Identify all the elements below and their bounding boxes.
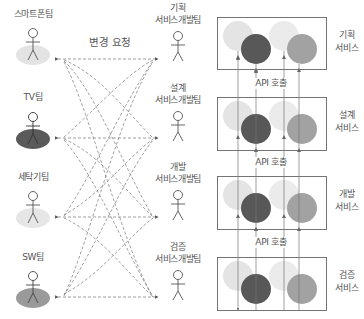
api-call-label-1: API 호출: [244, 78, 298, 89]
dev-team-label-develop-line2: 서비스개발팀: [148, 174, 208, 185]
api-call-label-3: API 호출: [244, 237, 298, 248]
service-box-develop: [218, 177, 327, 230]
service-box-planning: [218, 18, 327, 70]
service-label-develop-line1: 개발: [330, 189, 364, 200]
team-label-tv: TV팀: [8, 92, 58, 103]
service-label-develop-line2: 서비스: [330, 202, 364, 213]
team-label-sw: SW팀: [8, 252, 58, 263]
dev-team-label-verify-line2: 서비스개발팀: [148, 254, 208, 265]
service-label-design-line2: 서비스: [330, 123, 364, 134]
dev-team-label-design-line2: 서비스개발팀: [148, 95, 208, 106]
service-label-design-line1: 설계: [330, 110, 364, 121]
dev-team-label-planning-line2: 서비스개발팀: [148, 15, 208, 26]
actor-icon-develop-dev: [171, 191, 185, 221]
dev-team-label-design-line1: 설계: [148, 83, 208, 94]
api-call-label-2: API 호출: [244, 157, 298, 168]
diagram-canvas: [0, 0, 364, 319]
team-label-smartphone: 스마트폰팀: [8, 9, 58, 20]
change-request-label: 변경 요청: [80, 37, 140, 48]
dev-team-label-verify-line1: 검증: [148, 242, 208, 253]
service-box-verify: [218, 258, 327, 311]
dev-team-label-develop-line1: 개발: [148, 162, 208, 173]
service-label-verify-line1: 검증: [330, 270, 364, 281]
dev-team-label-planning-line1: 기획: [148, 3, 208, 14]
change-request-arrows: [58, 59, 158, 297]
service-label-planning-line1: 기획: [330, 30, 364, 41]
actor-icon-design-dev: [171, 112, 185, 142]
service-label-verify-line2: 서비스: [330, 283, 364, 294]
team-label-washer: 세탁기팀: [8, 172, 58, 183]
service-label-planning-line2: 서비스: [330, 43, 364, 54]
actor-icon-planning-dev: [171, 32, 185, 62]
service-box-design: [218, 98, 327, 151]
actor-icon-verify-dev: [171, 271, 185, 301]
